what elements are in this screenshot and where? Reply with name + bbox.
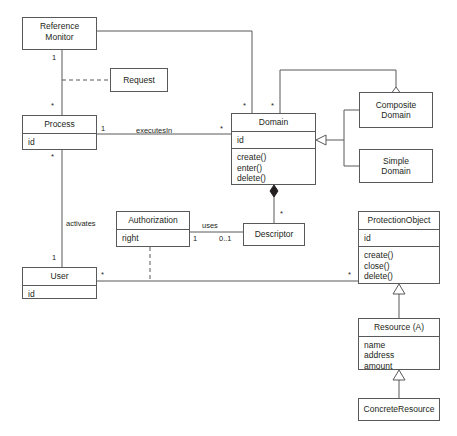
class-name-authorization: Authorization (117, 212, 189, 229)
class-attributes-domain: id (232, 131, 315, 149)
class-name-user: User (23, 268, 96, 285)
multiplicity-process-referencemonitor-star: * (51, 101, 54, 110)
class-name-line: Authorization (119, 215, 187, 226)
uml-class-diagram: Reference Monitor Request Process id Dom… (0, 0, 457, 436)
class-protection-object[interactable]: ProtectionObject id create() close() del… (358, 211, 440, 284)
edge-generalization-domain-subclasses (326, 110, 359, 166)
class-attributes-process: id (23, 133, 96, 151)
class-name-line: Monitor (25, 32, 94, 43)
class-concrete-resource[interactable]: ConcreteResource (358, 398, 440, 421)
class-request[interactable]: Request (110, 68, 168, 92)
operation-row: create() (364, 250, 439, 261)
class-name-domain: Domain (232, 114, 315, 131)
operation-row: enter() (237, 163, 315, 174)
class-operations-domain: create() enter() delete() (232, 148, 315, 187)
class-name-line: Resource (A) (361, 322, 437, 333)
class-name-descriptor: Descriptor (244, 229, 304, 240)
multiplicity-authorization-uses-one: 1 (193, 234, 197, 243)
class-simple-domain[interactable]: Simple Domain (359, 149, 433, 183)
class-name-protection-object: ProtectionObject (359, 212, 439, 229)
attribute-row: id (28, 289, 96, 300)
operation-row: delete() (237, 173, 315, 184)
composition-diamond-domain-descriptor (270, 185, 278, 197)
attribute-row: id (28, 137, 96, 148)
class-attributes-resource: name address amount (359, 336, 439, 375)
attribute-row: right (122, 233, 189, 244)
operation-row: delete() (364, 271, 439, 282)
class-name-line: Request (111, 75, 167, 86)
class-name-process: Process (23, 116, 96, 133)
class-attributes-authorization: right (117, 229, 189, 247)
multiplicity-domain-top-right-star: * (271, 101, 274, 110)
attribute-row: name (364, 340, 439, 351)
multiplicity-referencemonitor-process-one: 1 (52, 53, 56, 62)
operation-row: create() (237, 152, 315, 163)
class-name-line: Process (25, 119, 94, 130)
multiplicity-user-activates-one: 1 (52, 253, 56, 262)
class-name-resource: Resource (A) (359, 319, 439, 336)
class-name-line: User (25, 271, 94, 282)
operation-row: close() (364, 261, 439, 272)
generalization-triangle-protectionobject (393, 284, 405, 294)
class-process[interactable]: Process id (22, 115, 97, 150)
class-name-line: Descriptor (244, 229, 304, 240)
class-attributes-protection-object: id (359, 229, 439, 247)
class-name-line: Domain (360, 110, 432, 121)
multiplicity-user-protectionobject-star: * (101, 270, 104, 279)
multiplicity-process-executesin-one: 1 (101, 124, 105, 133)
class-descriptor[interactable]: Descriptor (243, 223, 305, 246)
multiplicity-descriptor-domain-star: * (280, 209, 283, 218)
multiplicity-descriptor-uses: 0..1 (219, 234, 232, 243)
label-uses: uses (202, 221, 218, 230)
class-name-line: Domain (360, 166, 432, 177)
class-name-line: Simple (360, 156, 432, 167)
class-resource[interactable]: Resource (A) name address amount (358, 318, 440, 370)
class-name-line: ProtectionObject (361, 215, 437, 226)
class-name-reference-monitor: Reference Monitor (23, 18, 96, 44)
label-executes-in: executesIn (136, 126, 172, 135)
class-name-concrete-resource: ConcreteResource (359, 404, 439, 415)
class-name-line: Composite (360, 100, 432, 111)
class-name-line: Domain (234, 117, 313, 128)
multiplicity-process-activates-star: * (51, 152, 54, 161)
multiplicity-domain-top-left-star: * (243, 101, 246, 110)
attribute-row: id (364, 233, 439, 244)
class-authorization[interactable]: Authorization right (116, 211, 190, 247)
multiplicity-domain-executesin-star: * (220, 124, 223, 133)
class-attributes-user: id (23, 285, 96, 303)
class-name-request: Request (111, 75, 167, 86)
class-name-composite-domain: Composite Domain (360, 100, 432, 121)
attribute-row: id (237, 135, 315, 146)
attribute-row: address (364, 350, 439, 361)
class-name-simple-domain: Simple Domain (360, 156, 432, 177)
class-operations-protection-object: create() close() delete() (359, 246, 439, 285)
multiplicity-protectionobject-user-star: * (348, 270, 351, 279)
label-activates: activates (66, 219, 96, 228)
class-reference-monitor[interactable]: Reference Monitor (22, 17, 97, 50)
class-composite-domain[interactable]: Composite Domain (359, 92, 433, 128)
class-domain[interactable]: Domain id create() enter() delete() (231, 113, 316, 185)
attribute-row: amount (364, 361, 439, 372)
class-name-line: ConcreteResource (359, 404, 439, 415)
class-user[interactable]: User id (22, 267, 97, 299)
generalization-triangle-domain (316, 135, 326, 145)
class-name-line: Reference (25, 21, 94, 32)
